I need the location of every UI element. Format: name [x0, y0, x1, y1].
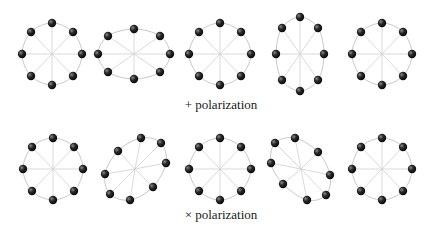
particle-icon — [303, 196, 311, 204]
particle-icon — [130, 75, 138, 83]
particle-icon — [104, 32, 112, 40]
particle-icon — [357, 72, 365, 80]
spoke-line — [361, 32, 382, 54]
particle-icon — [185, 165, 193, 173]
spoke-line — [199, 169, 220, 191]
particle-icon — [291, 134, 299, 142]
particle-icon — [49, 134, 57, 142]
particle-icon — [348, 165, 356, 173]
spoke-line — [382, 54, 403, 76]
particle-icon — [48, 19, 56, 27]
particle-icon — [357, 28, 365, 36]
spoke-line — [32, 169, 53, 191]
particle-ring — [348, 19, 416, 89]
particle-icon — [69, 28, 77, 36]
particle-icon — [237, 28, 245, 36]
particle-icon — [237, 143, 245, 151]
particle-icon — [49, 196, 57, 204]
particle-ring — [348, 134, 416, 204]
particle-icon — [156, 68, 164, 76]
spoke-line — [301, 169, 307, 200]
particle-icon — [137, 134, 145, 142]
particle-icon — [79, 165, 87, 173]
particle-icon — [28, 187, 36, 195]
particle-icon — [19, 165, 27, 173]
particle-icon — [101, 170, 109, 178]
particle-ring — [18, 19, 86, 89]
spoke-line — [301, 169, 326, 195]
particle-ring — [19, 134, 87, 204]
particle-icon — [247, 165, 255, 173]
particle-ring — [185, 19, 255, 89]
particle-icon — [271, 139, 279, 147]
particle-icon — [162, 159, 170, 167]
spoke-line — [220, 169, 241, 191]
spoke-line — [361, 147, 382, 169]
spoke-line — [32, 147, 53, 169]
particle-icon — [126, 196, 134, 204]
particle-icon — [195, 72, 203, 80]
particle-icon — [18, 50, 26, 58]
particle-ring — [267, 134, 334, 204]
cross-polarization-label: × polarization — [185, 207, 258, 223]
particle-icon — [216, 134, 224, 142]
particle-icon — [399, 72, 407, 80]
particle-icon — [320, 50, 328, 58]
particle-icon — [104, 68, 112, 76]
particle-icon — [27, 72, 35, 80]
spoke-line — [53, 169, 74, 191]
spoke-line — [382, 169, 403, 191]
particle-icon — [378, 134, 386, 142]
spoke-line — [300, 54, 318, 80]
particle-icon — [378, 81, 386, 89]
particle-icon — [247, 50, 255, 58]
particle-icon — [48, 81, 56, 89]
spoke-line — [361, 169, 382, 191]
spoke-line — [199, 32, 220, 54]
particle-icon — [28, 143, 36, 151]
spoke-line — [108, 36, 134, 54]
particle-icon — [314, 148, 322, 156]
particle-icon — [130, 25, 138, 33]
spoke-line — [199, 147, 220, 169]
particle-icon — [296, 13, 304, 21]
particle-icon — [69, 72, 77, 80]
particle-icon — [278, 24, 286, 32]
plus-polarization-row — [18, 13, 416, 95]
plus-polarization-label: + polarization — [185, 97, 258, 113]
particle-icon — [237, 72, 245, 80]
spoke-line — [361, 54, 382, 76]
spoke-line — [134, 54, 160, 72]
particle-icon — [272, 50, 280, 58]
particle-icon — [267, 159, 275, 167]
particle-icon — [399, 187, 407, 195]
spoke-line — [282, 28, 300, 54]
cross-polarization-row — [19, 134, 416, 204]
particle-icon — [216, 19, 224, 27]
particle-icon — [296, 87, 304, 95]
particle-icon — [237, 187, 245, 195]
particle-icon — [114, 147, 122, 155]
particle-ring — [272, 13, 328, 95]
particle-icon — [166, 50, 174, 58]
particle-icon — [408, 165, 416, 173]
spoke-line — [271, 163, 301, 169]
particle-icon — [378, 196, 386, 204]
spoke-line — [382, 147, 403, 169]
spoke-line — [52, 32, 73, 54]
particle-icon — [399, 28, 407, 36]
particle-icon — [408, 50, 416, 58]
spoke-line — [220, 32, 241, 54]
spoke-line — [382, 32, 403, 54]
spoke-line — [31, 32, 52, 54]
particle-icon — [185, 50, 193, 58]
spoke-line — [220, 54, 241, 76]
particle-icon — [348, 50, 356, 58]
particle-icon — [195, 28, 203, 36]
particle-icon — [322, 191, 330, 199]
particle-icon — [94, 50, 102, 58]
particle-icon — [378, 19, 386, 27]
particle-icon — [78, 50, 86, 58]
spoke-line — [282, 54, 300, 80]
particle-icon — [156, 32, 164, 40]
